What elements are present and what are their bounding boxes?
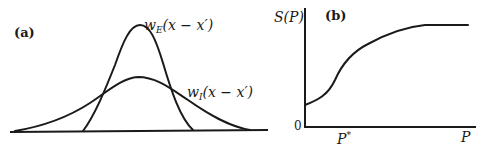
inhibitory-kernel-label: wI(x − x′) xyxy=(187,84,253,102)
panel-b-tag: (b) xyxy=(325,8,346,23)
panel-a-baseline xyxy=(10,130,268,132)
x-axis-label: P xyxy=(460,129,471,145)
sigmoid-curve xyxy=(305,25,468,105)
y-axis-label: S(P) xyxy=(274,9,304,25)
threshold-tick-label: P* xyxy=(336,130,351,147)
panel-a-tag: (a) xyxy=(14,25,35,40)
figure: (a) wE(x − x′) wI(x − x′) (b) S(P) 0 P* … xyxy=(0,0,488,147)
panel-b: (b) S(P) 0 P* P xyxy=(274,8,476,147)
panel-a: (a) wE(x − x′) wI(x − x′) xyxy=(10,17,268,132)
excitatory-kernel-label: wE(x − x′) xyxy=(144,17,213,35)
origin-label: 0 xyxy=(294,119,302,133)
